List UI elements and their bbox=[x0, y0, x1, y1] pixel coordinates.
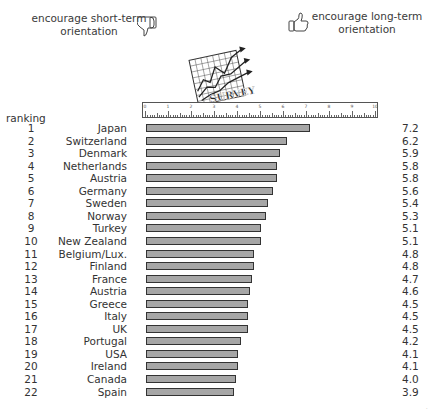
value-label: 5.8 bbox=[402, 160, 419, 172]
ruler-tick bbox=[308, 115, 309, 117]
ruler-tick bbox=[251, 115, 252, 117]
value-label: 4.8 bbox=[402, 248, 419, 260]
ruler-tick bbox=[262, 115, 263, 117]
country-label: Norway bbox=[87, 210, 127, 222]
ruler-tick bbox=[193, 115, 194, 117]
chart-row: 22Spain3.9 bbox=[0, 386, 433, 398]
ruler-tick bbox=[357, 115, 358, 117]
value-label: 6.2 bbox=[402, 135, 419, 147]
bar bbox=[146, 137, 287, 145]
rank-number: 21 bbox=[20, 373, 42, 385]
value-label: 5.1 bbox=[402, 235, 419, 247]
rank-number: 20 bbox=[20, 360, 42, 372]
ruler-tick bbox=[154, 115, 155, 117]
ruler-tick-label: 1 bbox=[167, 104, 170, 109]
chart-row: 13France4.7 bbox=[0, 273, 433, 285]
rank-number: 15 bbox=[20, 298, 42, 310]
ruler-tick bbox=[343, 115, 344, 117]
bar bbox=[146, 362, 238, 370]
value-label: 5.6 bbox=[402, 185, 419, 197]
value-label: 4.0 bbox=[402, 373, 419, 385]
ruler-tick bbox=[189, 115, 190, 117]
ruler-tick bbox=[200, 115, 201, 117]
long-term-label-line1: encourage long-term bbox=[302, 10, 432, 23]
ruler-tick bbox=[198, 115, 199, 117]
ruler-tick bbox=[232, 115, 233, 117]
ruler-tick bbox=[207, 115, 208, 117]
country-label: UK bbox=[112, 323, 127, 335]
value-label: 7.2 bbox=[402, 122, 419, 134]
ruler-tick bbox=[288, 115, 289, 117]
ruler-tick bbox=[166, 115, 167, 117]
bar bbox=[146, 149, 280, 157]
ruler-tick bbox=[350, 115, 351, 117]
ruler-tick bbox=[191, 111, 192, 117]
ruler-tick bbox=[370, 115, 371, 117]
country-label: Portugal bbox=[84, 335, 128, 347]
ruler-tick bbox=[304, 115, 305, 117]
page-mark: · bbox=[426, 405, 428, 411]
rank-number: 7 bbox=[20, 197, 42, 209]
ruler-tick bbox=[366, 115, 367, 117]
rank-number: 2 bbox=[20, 135, 42, 147]
rank-number: 19 bbox=[20, 348, 42, 360]
long-term-label: encourage long-term orientation bbox=[302, 10, 432, 36]
chart-row: 7Sweden5.4 bbox=[0, 197, 433, 209]
value-label: 5.4 bbox=[402, 197, 419, 209]
ruler-tick-label: 8 bbox=[328, 104, 331, 109]
value-label: 4.2 bbox=[402, 335, 419, 347]
chart-row: 8Norway5.3 bbox=[0, 210, 433, 222]
country-label: Turkey bbox=[93, 222, 127, 234]
rank-number: 16 bbox=[20, 310, 42, 322]
ruler-tick bbox=[352, 111, 353, 117]
ruler-tick bbox=[223, 115, 224, 117]
ruler-tick bbox=[368, 115, 369, 117]
ruler-tick bbox=[320, 115, 321, 117]
ruler-tick bbox=[283, 111, 284, 117]
ruler-tick bbox=[265, 115, 266, 117]
chart-row: 12Finland4.8 bbox=[0, 260, 433, 272]
ruler-tick bbox=[209, 115, 210, 117]
country-label: Canada bbox=[87, 373, 127, 385]
bar bbox=[146, 199, 268, 207]
ruler-tick bbox=[292, 115, 293, 117]
value-label: 4.5 bbox=[402, 323, 419, 335]
ruler-tick bbox=[216, 115, 217, 117]
country-label: Greece bbox=[90, 298, 127, 310]
ruler-tick bbox=[161, 115, 162, 117]
ruler-tick bbox=[354, 115, 355, 117]
ruler-tick bbox=[249, 113, 250, 117]
ruler-tick bbox=[315, 115, 316, 117]
rank-number: 4 bbox=[20, 160, 42, 172]
ruler-tick bbox=[237, 111, 238, 117]
value-label: 5.1 bbox=[402, 222, 419, 234]
country-label: Netherlands bbox=[63, 160, 127, 172]
bar bbox=[146, 388, 234, 396]
rank-number: 13 bbox=[20, 273, 42, 285]
ruler-tick bbox=[364, 113, 365, 117]
ruler-tick bbox=[184, 115, 185, 117]
ruler-tick bbox=[242, 115, 243, 117]
ruler-tick bbox=[375, 111, 376, 117]
chart-row: 18Portugal4.2 bbox=[0, 335, 433, 347]
ruler-tick bbox=[186, 115, 187, 117]
ruler-tick bbox=[290, 115, 291, 117]
ruler-tick bbox=[311, 115, 312, 117]
ruler-tick bbox=[180, 113, 181, 117]
ruler-tick bbox=[274, 115, 275, 117]
ruler-tick bbox=[253, 115, 254, 117]
rank-number: 1 bbox=[20, 122, 42, 134]
ruler-tick bbox=[347, 115, 348, 117]
ruler-tick bbox=[205, 115, 206, 117]
ruler-tick bbox=[276, 115, 277, 117]
bar bbox=[146, 224, 261, 232]
chart-row: 4Netherlands5.8 bbox=[0, 160, 433, 172]
ruler-tick-label: 9 bbox=[351, 104, 354, 109]
ruler-tick bbox=[278, 115, 279, 117]
chart-row: 19USA4.1 bbox=[0, 348, 433, 360]
country-label: France bbox=[92, 273, 127, 285]
value-label: 5.8 bbox=[402, 172, 419, 184]
ruler-tick bbox=[228, 115, 229, 117]
value-label: 5.9 bbox=[402, 147, 419, 159]
chart-row: 11Belgium/Lux.4.8 bbox=[0, 248, 433, 260]
